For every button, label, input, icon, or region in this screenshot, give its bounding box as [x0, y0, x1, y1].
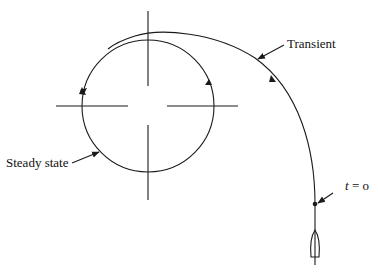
t0-label-eq: = o [349, 178, 369, 193]
circle-arrow-right-icon [205, 79, 212, 85]
transient-path [108, 32, 315, 265]
steady-state-label: Steady state [6, 155, 69, 170]
start-point-dot [313, 202, 318, 207]
t0-pointer [318, 193, 333, 203]
transient-pointer [258, 45, 284, 59]
steady-state-pointer [72, 152, 99, 163]
turning-circle-diagram: Transient Steady state t = o [0, 0, 378, 276]
t0-label: t = o [345, 178, 369, 193]
transient-label: Transient [287, 36, 336, 51]
